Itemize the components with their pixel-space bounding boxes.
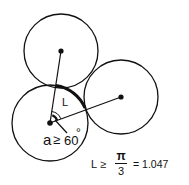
formula-relation: ≥ — [100, 158, 106, 170]
formula-denominator: 3 — [118, 165, 124, 177]
formula-lhs: L — [91, 158, 97, 170]
formula-numerator: π — [116, 149, 125, 163]
angle-label-prefix: a — [43, 131, 52, 148]
arc-L — [56, 86, 85, 109]
bottom-left-center-dot — [47, 120, 53, 126]
angle-unit: ° — [76, 126, 81, 140]
right-center-dot — [118, 94, 123, 99]
angle-arc-inner — [52, 115, 57, 120]
angle-relation: ≥ — [53, 132, 60, 147]
circle-packing-diagram: L a ≥ 60 ° L ≥ π 3 = 1.047 — [0, 0, 189, 185]
top-center-dot — [58, 48, 63, 53]
arc-label: L — [62, 96, 68, 108]
radius-to-right-center — [50, 97, 121, 123]
formula-result: = 1.047 — [133, 158, 168, 170]
